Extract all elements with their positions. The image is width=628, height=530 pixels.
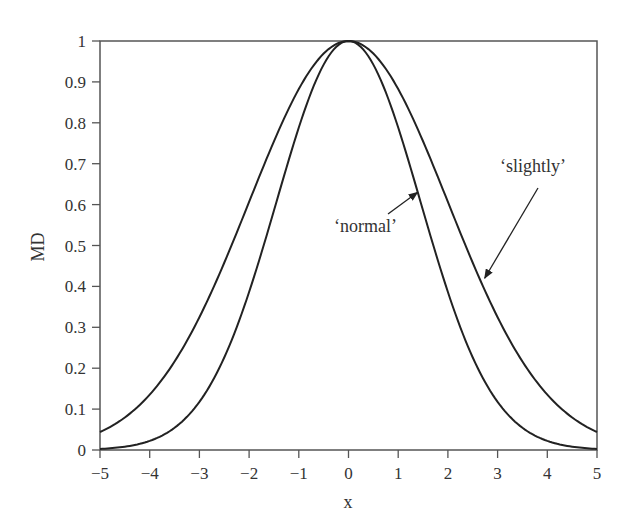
x-tick-label: −1 <box>290 464 308 483</box>
y-tick-label: 0.6 <box>65 196 86 215</box>
y-tick-label: 0.7 <box>65 155 87 174</box>
x-tick-label: 1 <box>394 464 403 483</box>
x-tick-label: −5 <box>91 464 109 483</box>
curve-slightly <box>100 41 597 432</box>
md-chart: 00.10.20.30.40.50.60.70.80.91 −5−4−3−2−1… <box>0 0 628 530</box>
x-tick-label: 0 <box>344 464 353 483</box>
annotation-label: ‘slightly’ <box>500 156 566 176</box>
x-axis-title: x <box>344 492 353 512</box>
plot-frame <box>100 41 597 450</box>
annotation-label: ‘normal’ <box>334 216 397 236</box>
x-tick-label: 5 <box>593 464 602 483</box>
curve-normal <box>100 41 597 449</box>
x-tick-label: 2 <box>444 464 453 483</box>
y-tick-label: 0.4 <box>65 277 87 296</box>
annotations: ‘normal’‘slightly’ <box>334 156 566 278</box>
x-tick-label: −2 <box>240 464 258 483</box>
y-axis: 00.10.20.30.40.50.60.70.80.91 <box>65 32 100 460</box>
x-tick-label: 3 <box>493 464 502 483</box>
annotation-arrow <box>388 192 418 214</box>
y-tick-label: 0.1 <box>65 400 86 419</box>
y-tick-label: 1 <box>78 32 87 51</box>
curves <box>100 41 597 449</box>
y-tick-label: 0 <box>78 441 87 460</box>
y-tick-label: 0.5 <box>65 237 86 256</box>
x-tick-label: −3 <box>190 464 208 483</box>
y-tick-label: 0.8 <box>65 114 86 133</box>
x-tick-label: 4 <box>543 464 552 483</box>
annotation-arrow <box>485 188 538 278</box>
y-tick-label: 0.9 <box>65 73 86 92</box>
x-tick-label: −4 <box>141 464 160 483</box>
x-axis: −5−4−3−2−1012345 <box>91 450 601 483</box>
y-tick-label: 0.3 <box>65 318 86 337</box>
y-tick-label: 0.2 <box>65 359 86 378</box>
y-axis-title: MD <box>28 232 48 261</box>
